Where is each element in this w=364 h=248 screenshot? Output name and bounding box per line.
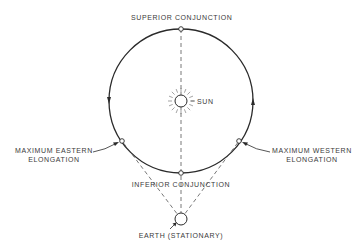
max-western-elongation-node [237,139,242,144]
earth-icon [175,213,187,225]
max-western-label-line2: ELONGATION [269,155,355,164]
western-pointer-arrow-icon [242,142,270,152]
superior-conjunction-label: SUPERIOR CONJUNCTION [131,13,231,22]
orbit-arrow-up-icon [251,98,255,105]
max-eastern-label-line2: ELONGATION [12,155,96,164]
earth-pointer-arrow-icon [170,223,177,230]
max-western-label-line1: MAXIMUM WESTERN [269,146,355,155]
max-eastern-elongation-label: MAXIMUM EASTERN ELONGATION [12,146,96,164]
orbit-arrow-down-icon [107,97,111,104]
sun-label: SUN [197,97,214,106]
superior-conjunction-node [179,27,184,32]
sun-icon [168,88,195,114]
earth-label: EARTH (STATIONARY) [131,231,231,240]
inferior-conjunction-node [179,171,184,176]
inferior-planet-orbit-diagram: SUPERIOR CONJUNCTION SUN MAXIMUM EASTERN… [0,0,364,248]
eastern-pointer-arrow-icon [93,142,119,152]
max-western-elongation-label: MAXIMUM WESTERN ELONGATION [269,146,355,164]
max-eastern-label-line1: MAXIMUM EASTERN [12,146,96,155]
inferior-conjunction-label: INFERIOR CONJUNCTION [131,180,231,189]
max-eastern-elongation-node [120,139,125,144]
diagram-canvas [0,0,364,248]
